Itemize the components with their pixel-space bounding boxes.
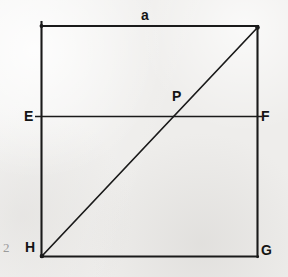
label-point-h: H bbox=[25, 240, 35, 254]
figure-drawing bbox=[0, 0, 288, 277]
vertex-dot-top-right bbox=[255, 25, 260, 30]
diagonal-h-to-corner bbox=[42, 27, 258, 256]
vertex-dot-bottom-left bbox=[40, 254, 45, 259]
vertex-dot-top-left bbox=[40, 24, 44, 28]
page-number: 2 bbox=[3, 241, 10, 254]
label-point-p: P bbox=[172, 89, 181, 103]
label-point-g: G bbox=[261, 243, 272, 257]
geometry-figure: a E F P H G 2 bbox=[0, 0, 288, 277]
label-point-f: F bbox=[261, 109, 270, 123]
label-point-e: E bbox=[24, 109, 33, 123]
label-side-a: a bbox=[141, 8, 149, 22]
